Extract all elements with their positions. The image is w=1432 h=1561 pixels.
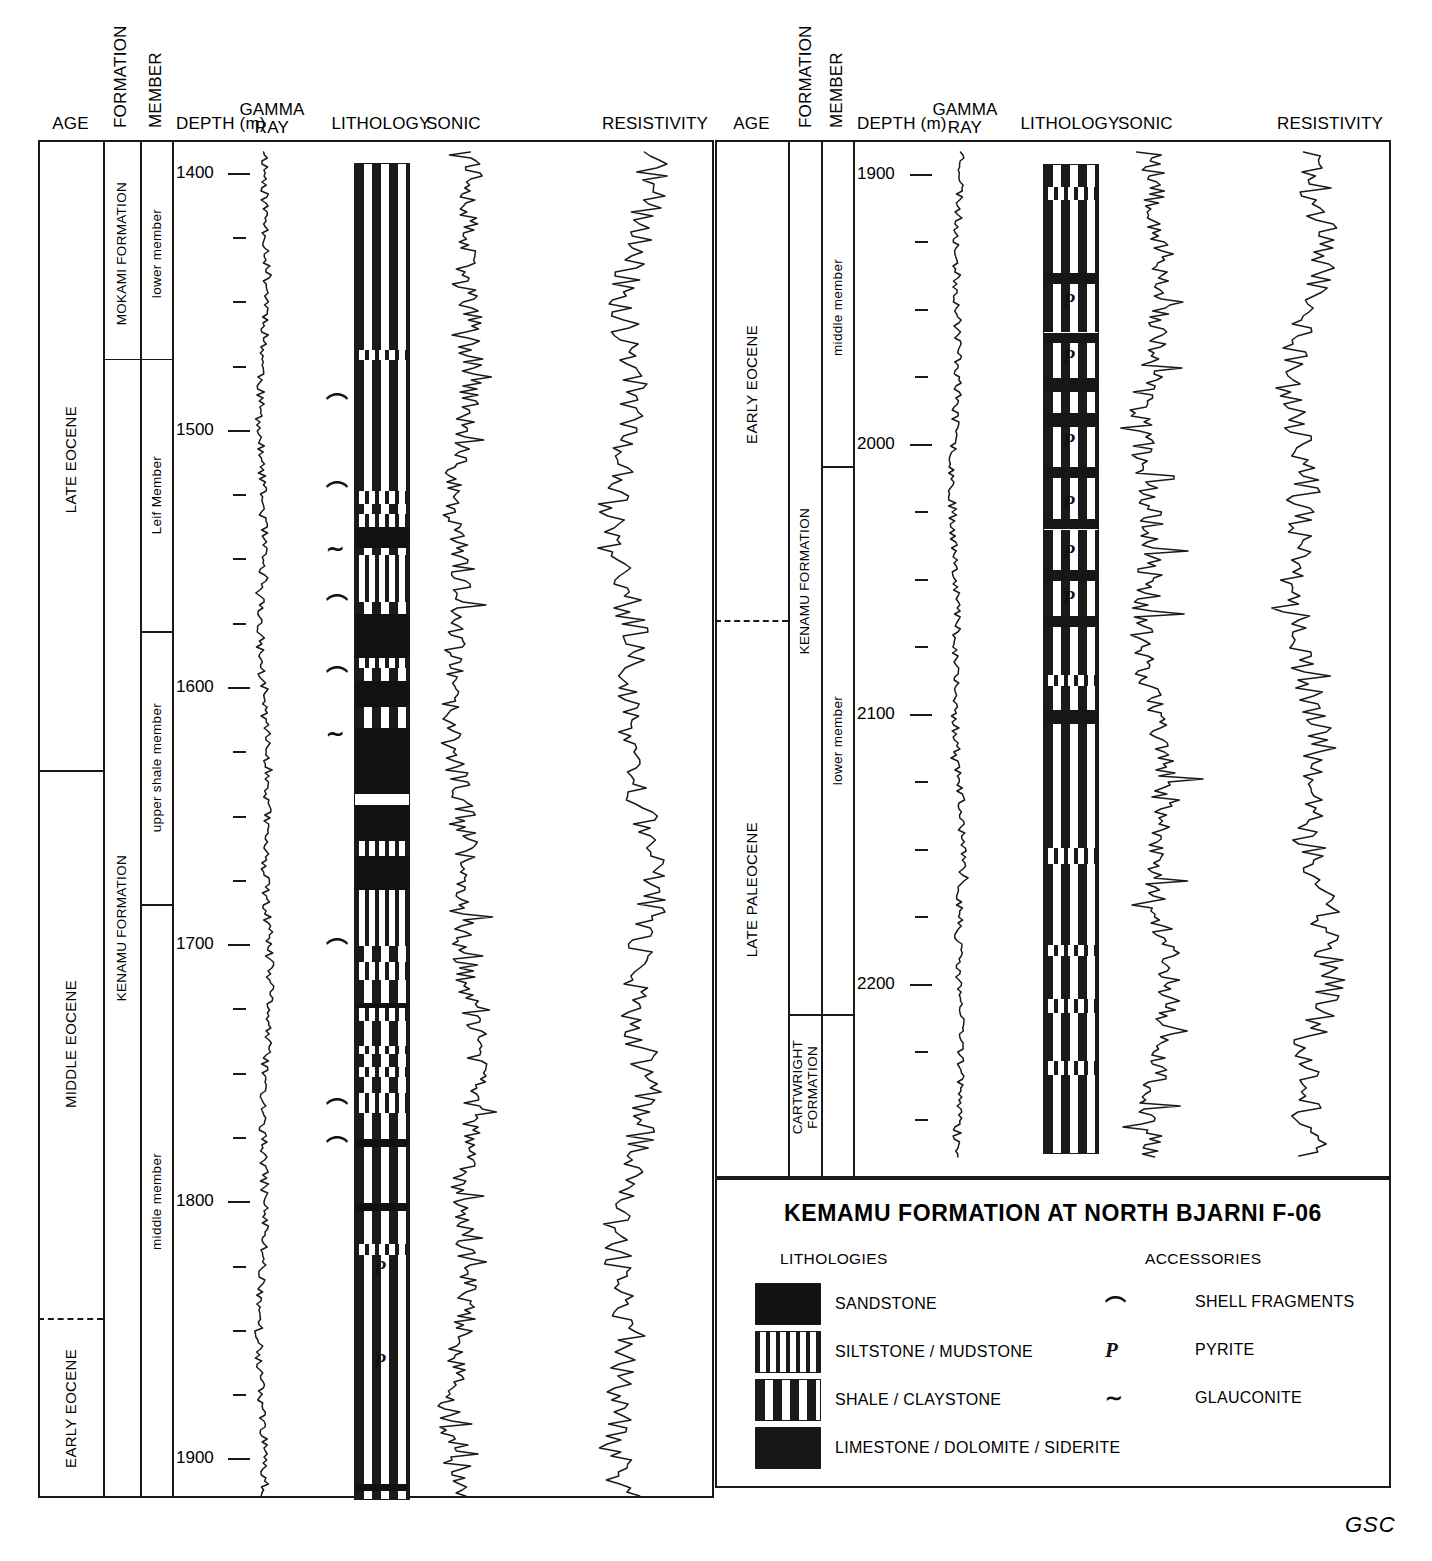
legend-swatch-siltstone [755, 1331, 821, 1373]
legend-label-pyrite-icon: PYRITE [1195, 1341, 1255, 1359]
legend-swatch-shale [755, 1379, 821, 1421]
legend-lithologies-heading: LITHOLOGIES [780, 1250, 888, 1268]
legend-label-shell-fragments-icon: SHELL FRAGMENTS [1195, 1293, 1355, 1311]
figure-root: AGEFORMATIONMEMBERDEPTH (m)GAMMARAYLITHO… [0, 0, 1432, 1561]
legend-title: KEMAMU FORMATION AT NORTH BJARNI F-06 [715, 1200, 1391, 1227]
legend-label-shale: SHALE / CLAYSTONE [835, 1391, 1001, 1409]
legend-pyrite-icon: P [1105, 1338, 1118, 1363]
legend-swatch-limestone [755, 1427, 821, 1469]
legend-shell-fragments-icon: ⌒ [1105, 1290, 1126, 1320]
gsc-credit: GSC [1345, 1512, 1396, 1538]
legend-label-siltstone: SILTSTONE / MUDSTONE [835, 1343, 1033, 1361]
legend-glauconite-icon: ∼ [1105, 1386, 1123, 1410]
legend-label-limestone: LIMESTONE / DOLOMITE / SIDERITE [835, 1439, 1121, 1457]
legend-label-glauconite-icon: GLAUCONITE [1195, 1389, 1302, 1407]
legend-swatch-sandstone [755, 1283, 821, 1325]
legend-accessories-heading: ACCESSORIES [1145, 1250, 1261, 1268]
legend-label-sandstone: SANDSTONE [835, 1295, 937, 1313]
